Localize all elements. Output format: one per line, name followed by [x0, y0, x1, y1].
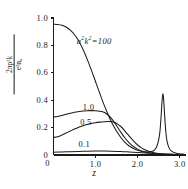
curve-a2k2_0p5 — [54, 122, 184, 155]
curve-label-a2k2_0p1: 0.1 — [78, 139, 90, 149]
y-axis-label: 2πρ²k e²n₀ — [6, 34, 23, 94]
y-tick-label: 0.2 — [16, 122, 48, 132]
x-tick-label: 0 — [34, 158, 62, 168]
data-curves — [54, 24, 184, 155]
y-tick-label: 1.0 — [16, 13, 48, 23]
curve-a2k2_100 — [54, 24, 184, 154]
y-tick-label: 0.4 — [16, 95, 48, 105]
figure-panel: 00.20.40.60.81.0 01.02.03.0 a2k2=1001.00… — [0, 0, 188, 189]
curve-label-a2k2_100: a2k2=100 — [77, 35, 112, 46]
x-axis-label: z — [0, 168, 188, 178]
curve-label-a2k2_1p0: 1.0 — [83, 102, 95, 112]
curve-label-a2k2_0p5: 0.5 — [80, 117, 92, 127]
y-axis-label-denominator: e²n₀ — [15, 34, 23, 94]
curve-a2k2_0p1 — [54, 151, 184, 155]
